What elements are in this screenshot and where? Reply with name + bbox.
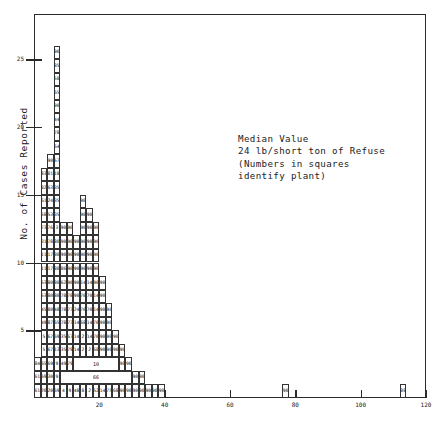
histogram-cell: 88 [400,384,407,398]
histogram-cell: 18 [54,168,61,182]
x-tick [295,390,296,398]
y-tick-label: 20 [8,123,24,130]
histogram-cell: 35 [54,195,61,209]
y-tick [26,59,42,60]
histogram-cell: 68 [80,317,87,331]
x-tick-label: 20 [87,401,111,408]
histogram-cell: 90 [80,263,87,277]
histogram-cell: 90 [54,100,61,114]
histogram-cell-merged: 10 [73,357,119,371]
y-tick-label: 25 [8,55,24,62]
histogram-cell: 85 [54,59,61,73]
histogram-cell: 35 [54,208,61,222]
y-tick-label: 10 [8,259,24,266]
histogram-cell: 90 [125,384,132,398]
histogram-cell: 90 [86,208,93,222]
x-tick [165,390,166,398]
histogram-cell: 90 [80,195,87,209]
x-tick-label: 40 [153,401,177,408]
histogram-cell: 90 [80,235,87,249]
histogram-cell: 64 [54,141,61,155]
histogram-cell-merged: 66 [60,371,132,385]
histogram-cell: 90 [93,249,100,263]
histogram-cell: 90 [158,384,165,398]
median-annotation: Median Value 24 lb/short ton of Refuse (… [238,133,385,183]
histogram-cell: 90 [67,222,74,236]
histogram-cell: 90 [99,276,106,290]
y-axis-label: No. of Cases Reported [18,89,29,259]
histogram-cell: 90 [80,222,87,236]
x-tick [361,390,362,398]
x-tick-label: 120 [414,401,438,408]
histogram-cell: 44 [54,113,61,127]
histogram-cell: 8 [80,384,87,398]
histogram-cell: 70 [80,290,87,304]
y-tick [26,127,42,128]
histogram-cell: 90 [106,317,113,331]
histogram-cell: 2 [80,330,87,344]
histogram-cell: 78 [54,127,61,141]
histogram-cell: 90 [80,249,87,263]
histogram-cell: 90 [125,357,132,371]
y-tick-label: 15 [8,191,24,198]
histogram-cell: 14 [80,276,87,290]
histogram-cell: 58 [54,73,61,87]
histogram-cell: 90 [112,330,119,344]
histogram-cell: 90 [93,222,100,236]
x-tick-label: 80 [283,401,307,408]
histogram-cell: 90 [54,46,61,60]
histogram-cell: 2 [80,344,87,358]
x-tick [230,390,231,398]
histogram-cell: 90 [282,384,289,398]
histogram-cell: 90 [93,235,100,249]
histogram-cell: 90 [119,344,126,358]
histogram-cell: 90 [139,371,146,385]
histogram-cell: 90 [106,303,113,317]
histogram-cell: 65 [54,86,61,100]
histogram-cell: 90 [93,263,100,277]
histogram-cell: 90 [80,208,87,222]
histogram-cell: 35 [54,181,61,195]
chart-root: No. of Cases Reported 510152025204060801… [0,0,442,427]
histogram-cell: 70 [80,303,87,317]
histogram-cell: 57 [54,154,61,168]
x-tick [426,390,427,398]
x-tick-label: 100 [349,401,373,408]
x-tick-label: 60 [218,401,242,408]
histogram-cell: 90 [99,290,106,304]
y-tick-label: 5 [8,326,24,333]
